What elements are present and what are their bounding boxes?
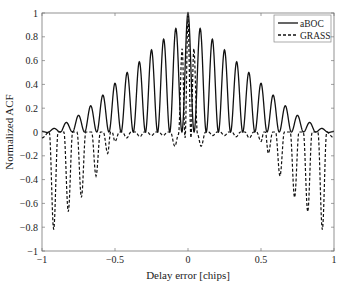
x-tick-labels: −1−0.500.51 bbox=[37, 254, 337, 265]
y-tick-label: −0.8 bbox=[20, 222, 38, 233]
y-axis-label: Normalized ACF bbox=[3, 94, 15, 169]
legend: aBOC GRASS bbox=[274, 15, 331, 42]
y-tick-label: −1 bbox=[27, 246, 38, 257]
x-tick-label: −1 bbox=[37, 254, 48, 265]
x-axis-label: Delay error [chips] bbox=[146, 269, 230, 281]
y-tick-label: −0.2 bbox=[20, 150, 38, 161]
x-tick-label: 1 bbox=[332, 254, 337, 265]
y-tick-label: 0 bbox=[33, 127, 38, 138]
x-tick-label: 0 bbox=[186, 254, 191, 265]
y-tick-label: 0.2 bbox=[26, 103, 39, 114]
y-tick-labels: 10.80.60.40.20−0.2−0.4−0.6−0.8−1 bbox=[20, 8, 38, 257]
plot-area bbox=[42, 13, 334, 251]
x-tick-label: 0.5 bbox=[255, 254, 268, 265]
y-tick-label: 0.6 bbox=[26, 55, 39, 66]
y-tick-label: 1 bbox=[33, 8, 38, 19]
y-tick-label: 0.4 bbox=[26, 79, 39, 90]
y-tick-label: −0.4 bbox=[20, 174, 38, 185]
y-tick-label: 0.8 bbox=[26, 31, 39, 42]
acf-chart: −1−0.500.51 10.80.60.40.20−0.2−0.4−0.6−0… bbox=[0, 0, 348, 289]
legend-label-grass: GRASS bbox=[300, 31, 331, 41]
x-tick-label: −0.5 bbox=[106, 254, 124, 265]
y-tick-label: −0.6 bbox=[20, 198, 38, 209]
legend-label-aboc: aBOC bbox=[300, 19, 324, 29]
